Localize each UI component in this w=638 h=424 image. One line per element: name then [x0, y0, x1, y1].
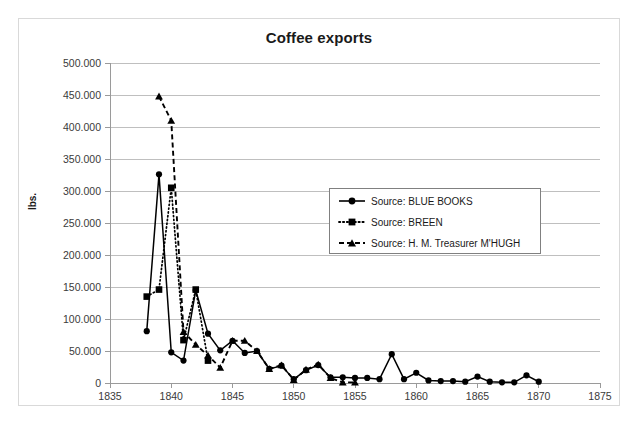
data-point	[450, 378, 456, 384]
y-axis-ticks: 050.000100.000150.000200.000250.000300.0…	[63, 57, 110, 389]
data-point	[499, 379, 505, 385]
x-tick-label: 1840	[160, 390, 184, 402]
y-tick-label: 400.000	[63, 121, 101, 133]
chart-legend: Source: BLUE BOOKS Source: BREEN Source:…	[329, 188, 541, 254]
data-point	[180, 337, 187, 344]
legend-key-triangle-icon	[338, 236, 366, 250]
y-tick-label: 500.000	[63, 57, 101, 69]
legend-label-mhugh: Source: H. M. Treasurer M'HUGH	[371, 238, 520, 249]
data-point	[389, 351, 395, 357]
legend-item-breen: Source: BREEN	[338, 211, 443, 233]
data-point	[364, 375, 370, 381]
y-tick-label: 0	[95, 377, 101, 389]
data-point	[425, 377, 431, 383]
data-point	[156, 286, 163, 293]
legend-key-square-icon	[338, 215, 366, 229]
x-tick-label: 1835	[98, 390, 122, 402]
data-point	[192, 341, 200, 348]
x-tick-label: 1865	[466, 390, 490, 402]
data-point	[156, 171, 162, 177]
data-point	[487, 379, 493, 385]
data-point	[462, 379, 468, 385]
data-point	[413, 370, 419, 376]
data-point	[217, 347, 223, 353]
data-point	[192, 286, 199, 293]
x-axis-ticks: 183518401845185018551860186518701875	[98, 383, 612, 402]
data-point	[474, 374, 480, 380]
y-tick-label: 450.000	[63, 89, 101, 101]
y-tick-label: 200.000	[63, 249, 101, 261]
data-point	[216, 364, 224, 371]
data-point	[155, 93, 163, 100]
series-line	[159, 96, 355, 382]
data-point	[168, 349, 174, 355]
data-point	[144, 328, 150, 334]
data-point	[536, 379, 542, 385]
data-point	[143, 293, 150, 300]
x-tick-label: 1855	[343, 390, 367, 402]
data-point	[438, 378, 444, 384]
y-tick-label: 100.000	[63, 313, 101, 325]
legend-key-circle-icon	[338, 194, 366, 208]
data-point	[511, 379, 517, 385]
plot-area: 050.000100.000150.000200.000250.000300.0…	[0, 0, 638, 424]
x-tick-label: 1850	[282, 390, 306, 402]
data-point	[401, 376, 407, 382]
legend-item-mhugh: Source: H. M. Treasurer M'HUGH	[338, 232, 520, 254]
y-tick-label: 300.000	[63, 185, 101, 197]
x-tick-label: 1875	[588, 390, 612, 402]
data-point	[167, 117, 175, 124]
data-point	[205, 331, 211, 337]
y-tick-label: 350.000	[63, 153, 101, 165]
legend-label-blue-books: Source: BLUE BOOKS	[371, 196, 473, 207]
legend-item-blue-books: Source: BLUE BOOKS	[338, 190, 473, 212]
y-tick-label: 50.000	[69, 345, 101, 357]
data-point	[376, 376, 382, 382]
data-point	[523, 372, 529, 378]
x-tick-label: 1870	[527, 390, 551, 402]
data-point	[168, 185, 175, 192]
x-tick-label: 1845	[221, 390, 245, 402]
x-tick-label: 1860	[405, 390, 429, 402]
chart-container: Coffee exports lbs. 050.000100.000150.00…	[0, 0, 638, 424]
y-tick-label: 250.000	[63, 217, 101, 229]
data-point	[204, 352, 212, 359]
legend-label-breen: Source: BREEN	[371, 217, 443, 228]
y-tick-label: 150.000	[63, 281, 101, 293]
data-point	[242, 350, 248, 356]
data-point	[180, 358, 186, 364]
